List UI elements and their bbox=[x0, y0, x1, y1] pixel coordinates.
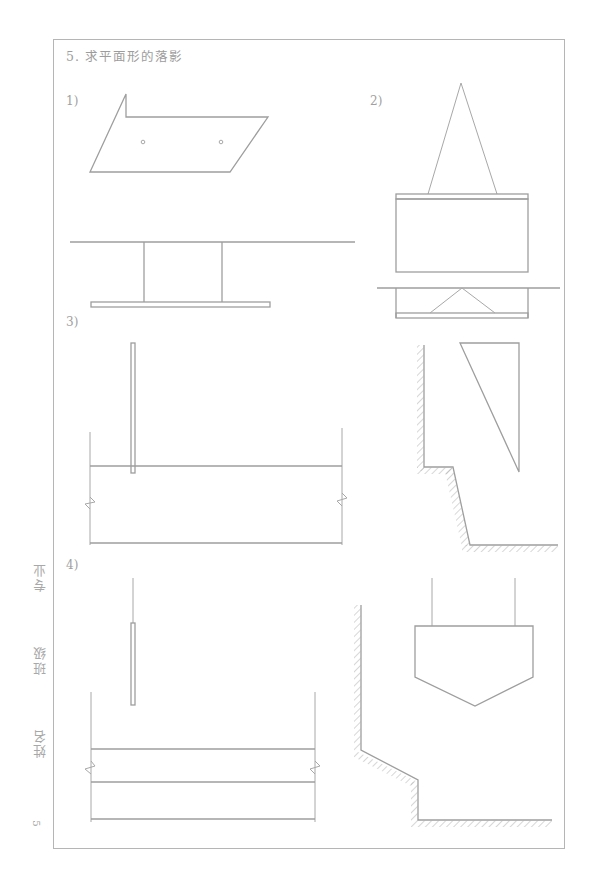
exercise-4-drawing bbox=[85, 578, 552, 827]
hanging-plate bbox=[131, 623, 135, 705]
slab-top bbox=[396, 194, 528, 199]
plan-triangle-edge bbox=[462, 288, 495, 313]
vertical-plate bbox=[131, 343, 135, 473]
right-triangle bbox=[460, 343, 519, 472]
point-marker bbox=[141, 140, 145, 144]
plan-slab bbox=[396, 313, 528, 318]
slab-front bbox=[396, 199, 528, 272]
triangle-edge bbox=[461, 83, 497, 194]
pentagon-plane bbox=[90, 94, 268, 172]
pentagon-sign bbox=[415, 626, 533, 706]
sloped-wall bbox=[361, 605, 552, 820]
base-slab bbox=[91, 302, 270, 307]
point-marker bbox=[219, 140, 223, 144]
break-mark bbox=[85, 761, 95, 774]
exercise-3-drawing bbox=[85, 343, 558, 552]
plan-triangle-edge bbox=[430, 288, 462, 313]
stepped-wall bbox=[424, 345, 558, 545]
drawing-canvas bbox=[0, 0, 593, 888]
exercise-1-drawing bbox=[70, 94, 355, 307]
triangle-edge bbox=[428, 83, 461, 194]
exercise-2-drawing bbox=[377, 83, 560, 318]
